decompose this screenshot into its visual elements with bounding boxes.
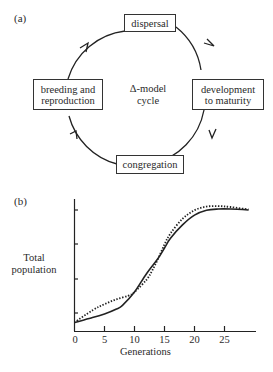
dotted-series bbox=[75, 206, 249, 322]
xtick-20: 20 bbox=[189, 334, 200, 345]
xtick-5: 5 bbox=[102, 334, 107, 345]
axes bbox=[74, 199, 256, 332]
xtick-0: 0 bbox=[72, 334, 77, 345]
xtick-15: 15 bbox=[159, 334, 170, 345]
xtick-25: 25 bbox=[219, 334, 230, 345]
population-chart bbox=[0, 0, 273, 372]
x-axis-label: Generations bbox=[120, 346, 171, 357]
xtick-10: 10 bbox=[129, 334, 140, 345]
